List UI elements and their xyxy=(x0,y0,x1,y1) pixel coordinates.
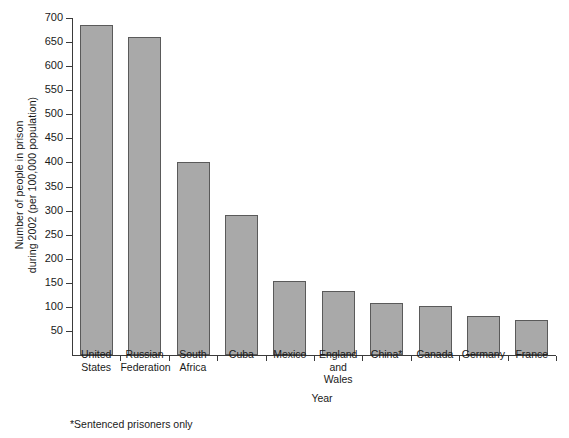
y-axis-tick-label: 550 xyxy=(45,83,63,96)
x-axis-category-label-line: and xyxy=(314,361,362,374)
y-axis-tick-label: 700 xyxy=(45,11,63,24)
y-axis-tick: 250 xyxy=(66,235,72,236)
y-axis-tick: 650 xyxy=(66,42,72,43)
y-axis-tick: 550 xyxy=(66,90,72,91)
bar xyxy=(128,37,161,355)
y-axis-tick-label: 100 xyxy=(45,300,63,313)
x-axis-category-label: Germany xyxy=(459,348,507,361)
x-axis-category-label-line: South xyxy=(169,348,217,361)
x-axis-category-label-line: Mexico xyxy=(266,348,314,361)
bar xyxy=(225,215,258,355)
x-axis-category-label: Mexico xyxy=(266,348,314,361)
y-axis-tick: 100 xyxy=(66,307,72,308)
y-axis-tick-label: 50 xyxy=(51,324,63,337)
x-axis-category-label: UnitedStates xyxy=(72,348,120,373)
y-axis-tick: 200 xyxy=(66,259,72,260)
y-axis-tick-label: 450 xyxy=(45,131,63,144)
x-axis-category-label-line: Wales xyxy=(314,373,362,386)
x-axis-category-label-line: Canada xyxy=(411,348,459,361)
y-axis-tick-label: 400 xyxy=(45,155,63,168)
y-axis-tick: 500 xyxy=(66,114,72,115)
x-axis-category-label: Canada xyxy=(411,348,459,361)
x-axis-category-label: RussianFederation xyxy=(120,348,168,373)
y-axis-tick: 450 xyxy=(66,138,72,139)
x-axis-category-label: China* xyxy=(362,348,410,361)
x-axis-category-label-line: Germany xyxy=(459,348,507,361)
y-axis-tick-label: 300 xyxy=(45,204,63,217)
x-axis-category-label: SouthAfrica xyxy=(169,348,217,373)
y-axis-tick-label: 500 xyxy=(45,107,63,120)
bar xyxy=(177,162,210,355)
x-axis-category-label-line: China* xyxy=(362,348,410,361)
y-axis-line xyxy=(72,18,73,356)
y-axis-tick-label: 250 xyxy=(45,228,63,241)
bar xyxy=(322,291,355,355)
y-axis-tick: 150 xyxy=(66,283,72,284)
x-axis-tick xyxy=(556,356,557,361)
x-axis-category-label-line: Russian xyxy=(120,348,168,361)
x-axis-category-label: France xyxy=(508,348,556,361)
plot-area: 5010015020025030035040045050055060065070… xyxy=(72,18,556,355)
x-axis-category-label-line: United xyxy=(72,348,120,361)
x-axis-category-label-line: Federation xyxy=(120,361,168,374)
x-axis-category-label: Cuba xyxy=(217,348,265,361)
y-axis-title: Number of people in prison during 2002 (… xyxy=(13,55,39,315)
x-axis-category-label-line: States xyxy=(72,361,120,374)
bar xyxy=(80,25,113,355)
y-axis-title-wrap: Number of people in prison during 2002 (… xyxy=(0,0,46,360)
x-axis-category-label-line: England xyxy=(314,348,362,361)
y-axis-tick-label: 350 xyxy=(45,180,63,193)
y-axis-tick: 350 xyxy=(66,187,72,188)
y-axis-title-line-1: Number of people in prison xyxy=(13,55,26,315)
x-axis-category-label-line: Cuba xyxy=(217,348,265,361)
x-axis-category-label-line: Africa xyxy=(169,361,217,374)
y-axis-tick: 700 xyxy=(66,18,72,19)
y-axis-tick-label: 200 xyxy=(45,252,63,265)
y-axis-tick-label: 650 xyxy=(45,35,63,48)
bar xyxy=(273,281,306,355)
y-axis-tick: 600 xyxy=(66,66,72,67)
y-axis-tick: 50 xyxy=(66,331,72,332)
bar-chart-figure: Number of people in prison during 2002 (… xyxy=(0,0,569,438)
chart-footnote: *Sentenced prisoners only xyxy=(70,418,193,430)
y-axis-tick-label: 600 xyxy=(45,59,63,72)
x-axis-category-label-line: France xyxy=(508,348,556,361)
x-axis-title: Year xyxy=(287,392,357,404)
y-axis-tick: 400 xyxy=(66,162,72,163)
y-axis-title-line-2: during 2002 (per 100,000 population) xyxy=(26,55,39,315)
y-axis-tick-label: 150 xyxy=(45,276,63,289)
y-axis-tick: 300 xyxy=(66,211,72,212)
x-axis-category-label: EnglandandWales xyxy=(314,348,362,386)
